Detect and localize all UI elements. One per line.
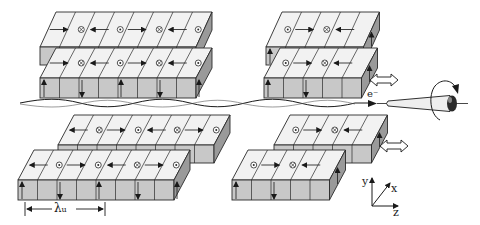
lambda-symbol: λ [54,201,62,215]
gap-adjust-lower-double-arrow-icon [380,140,408,152]
gap-adjust-upper-double-arrow-icon [370,74,398,86]
magnet-block-lower-right-front [232,150,346,200]
front-face [232,180,330,200]
magnet-block-lower-left-front [18,150,190,200]
electron-label: e⁻ [367,89,378,99]
radiation-spot-highlight [448,97,452,103]
top-face [232,150,346,180]
magnet-block-upper-left-bottom [40,48,212,98]
top-face [266,12,380,47]
top-face [274,115,388,145]
beam-direction-arrow-icon [368,100,377,107]
axis-z-label: z [393,207,399,218]
radiation-spot [447,96,457,112]
undulator-diagram [0,0,480,225]
polarization-arrowhead-icon [452,84,459,94]
axis-y-label: y [362,176,368,187]
radiation-cone [387,96,451,112]
axis-x-label: x [391,183,397,194]
lambda-subscript: u [62,205,67,214]
x-axis-arrow-icon [372,183,390,206]
front-face [264,78,362,98]
magnet-block-upper-right-bottom [264,48,378,98]
lambda-u-label: λu [54,202,67,214]
top-face [264,48,378,78]
